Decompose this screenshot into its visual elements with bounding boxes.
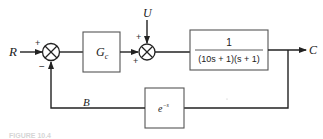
sum2-plus-sign-top: + xyxy=(136,32,141,42)
block-diagram: R + − Gc U + + 1 (10s + 1)(s + 1) C e−s … xyxy=(0,0,323,139)
feedback-label-b: B xyxy=(83,96,90,108)
plant-numerator: 1 xyxy=(226,37,232,48)
plant-denominator: (10s + 1)(s + 1) xyxy=(198,54,260,64)
summing-junction-1 xyxy=(43,44,60,61)
delay-block xyxy=(145,88,184,128)
output-label-c: C xyxy=(309,43,318,57)
disturbance-label-u: U xyxy=(143,6,153,20)
stray-mark xyxy=(226,98,227,99)
summing-junction-2 xyxy=(139,44,155,60)
input-label-r: R xyxy=(8,44,17,59)
sum1-plus-sign: + xyxy=(35,38,40,48)
sum2-plus-sign-left: + xyxy=(133,56,138,66)
figure-caption: FIGURE 10.4 xyxy=(9,132,51,139)
sum1-minus-sign: − xyxy=(39,61,45,72)
